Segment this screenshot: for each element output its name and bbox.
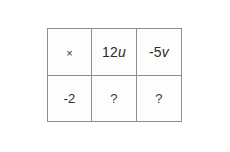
cell-answer-2: ? — [137, 76, 182, 122]
term-minus5v: -5v — [149, 44, 169, 60]
term-12u: 12u — [102, 44, 126, 60]
table-row: -2 ? ? — [48, 76, 182, 122]
cell-operator: × — [48, 29, 92, 76]
multiplication-sign-icon: × — [66, 47, 73, 59]
cell-column-header-1: 12u — [92, 29, 137, 76]
question-mark-placeholder: ? — [110, 91, 117, 106]
multiplication-table: × 12u -5v -2 ? ? — [47, 28, 182, 122]
question-mark-placeholder: ? — [155, 91, 162, 106]
multiplication-table-container: × 12u -5v -2 ? ? — [47, 28, 178, 119]
variable: v — [162, 44, 169, 60]
cell-column-header-2: -5v — [137, 29, 182, 76]
coefficient: 12 — [102, 44, 118, 60]
coefficient: -5 — [149, 44, 162, 60]
variable: u — [118, 44, 126, 60]
cell-row-header-1: -2 — [48, 76, 92, 122]
multiplier-value: -2 — [64, 91, 76, 106]
cell-answer-1: ? — [92, 76, 137, 122]
table-row: × 12u -5v — [48, 29, 182, 76]
